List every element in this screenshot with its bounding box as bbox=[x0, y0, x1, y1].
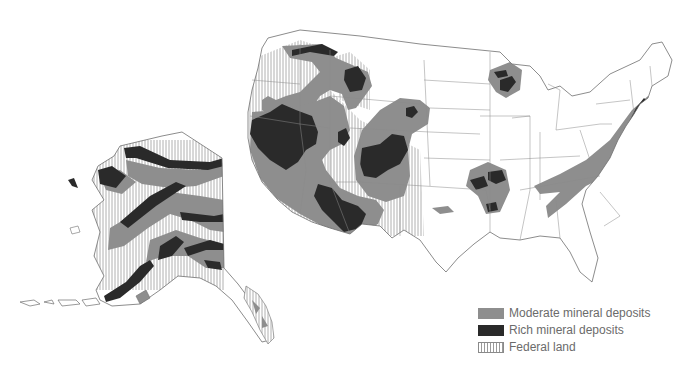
aleutian-islands bbox=[20, 298, 100, 306]
legend-label: Moderate mineral deposits bbox=[509, 306, 650, 320]
moderate-deposit-swatch bbox=[478, 308, 504, 319]
legend-label: Rich mineral deposits bbox=[509, 323, 624, 337]
legend-item-moderate: Moderate mineral deposits bbox=[478, 305, 650, 321]
federal-land-swatch bbox=[478, 342, 504, 353]
nunivak-island bbox=[70, 226, 80, 234]
legend-label: Federal land bbox=[509, 340, 576, 354]
alaska-map bbox=[20, 120, 280, 350]
contiguous-us-map bbox=[240, 20, 680, 300]
map-legend: Moderate mineral deposits Rich mineral d… bbox=[478, 305, 650, 356]
legend-item-federal: Federal land bbox=[478, 339, 650, 355]
rich-deposit-swatch bbox=[478, 325, 504, 336]
legend-item-rich: Rich mineral deposits bbox=[478, 322, 650, 338]
st-lawrence-island bbox=[68, 178, 78, 188]
